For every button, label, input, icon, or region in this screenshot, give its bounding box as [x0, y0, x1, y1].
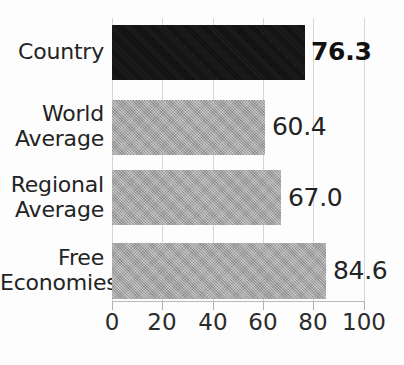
bar-label-free-economies: Free Economies — [0, 245, 104, 295]
bar-world-average-fill — [112, 100, 265, 155]
bar-value-country: 76.3 — [311, 38, 371, 66]
chart-title-clipped — [150, 0, 270, 7]
bar-label-regional-average: Regional Average — [0, 172, 104, 222]
bar-label-world-average: World Average — [0, 101, 104, 151]
bar-label-country: Country — [0, 39, 104, 64]
bar-chart: 0 20 40 60 80 100 Country 76.3 World Ave… — [0, 0, 404, 365]
bar-label-free-economies-line-1: Free — [0, 245, 104, 270]
bar-free-economies-fill — [112, 243, 326, 299]
bar-label-regional-average-line-2: Average — [0, 197, 104, 222]
bar-value-world-average: 60.4 — [272, 113, 326, 141]
bar-value-free-economies: 84.6 — [333, 257, 387, 285]
bar-regional-average-fill — [112, 170, 281, 225]
bar-regional-average — [112, 170, 281, 225]
bar-free-economies — [112, 243, 326, 299]
bar-label-world-average-line-2: Average — [0, 126, 104, 151]
bar-label-free-economies-line-2: Economies — [0, 270, 104, 295]
bar-world-average — [112, 100, 265, 155]
bar-value-regional-average: 67.0 — [288, 184, 342, 212]
bar-label-regional-average-line-1: Regional — [0, 172, 104, 197]
bar-country — [112, 25, 305, 80]
bar-label-world-average-line-1: World — [0, 101, 104, 126]
bar-label-country-line-1: Country — [0, 39, 104, 64]
x-tick-label-100: 100 — [334, 309, 394, 335]
x-axis-line — [112, 301, 365, 302]
bar-country-fill — [112, 25, 305, 80]
